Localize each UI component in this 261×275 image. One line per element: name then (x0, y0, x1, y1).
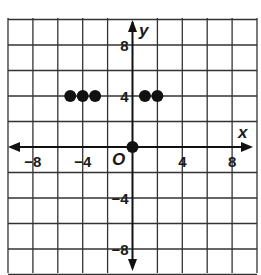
x-axis-right-arrow-icon (241, 142, 253, 152)
coordinate-plane: −8−44884−4−8 x y O (0, 0, 261, 275)
data-point (64, 90, 76, 102)
data-point (151, 90, 163, 102)
y-axis-up-arrow-icon (128, 20, 137, 32)
x-tick-label: 8 (228, 153, 236, 170)
data-point (77, 90, 89, 102)
y-axis-down-arrow-icon (128, 259, 137, 271)
x-tick-label: 4 (178, 153, 187, 170)
y-tick-label: 4 (120, 88, 129, 105)
y-tick-label: 8 (120, 37, 128, 54)
x-axis-label: x (237, 123, 249, 142)
y-tick-label: −8 (111, 241, 128, 258)
y-tick-label: −4 (111, 190, 129, 207)
data-point (139, 90, 151, 102)
x-tick-label: −8 (24, 153, 41, 170)
origin-label: O (112, 150, 125, 169)
x-tick-label: −4 (74, 153, 92, 170)
y-axis-label: y (138, 21, 150, 40)
data-point (127, 141, 139, 153)
x-axis-left-arrow-icon (8, 142, 20, 152)
data-point (89, 90, 101, 102)
